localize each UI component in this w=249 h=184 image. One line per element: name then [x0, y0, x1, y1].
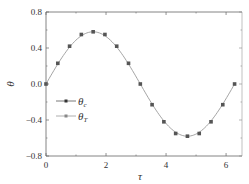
x-tick-label: 4	[164, 160, 169, 170]
theta-c-marker	[221, 103, 225, 107]
x-axis-label: τ	[138, 170, 143, 182]
theta-c-marker	[127, 62, 131, 66]
y-tick-label: 0.4	[31, 43, 43, 53]
theta-c-marker	[139, 82, 143, 86]
chart: 02460.80.40.0−0.4−0.8 τ θ θcθT	[0, 0, 249, 184]
legend-marker	[65, 100, 68, 103]
theta-c-marker	[115, 44, 119, 48]
plot-frame	[46, 12, 242, 156]
theta-c-marker	[80, 33, 84, 37]
theta-c-marker	[233, 82, 237, 86]
legend-label: θc	[78, 95, 87, 109]
y-tick-label: 0.8	[31, 7, 43, 17]
y-tick-label: 0.0	[31, 79, 43, 89]
y-tick-label: −0.8	[26, 151, 43, 161]
theta-c-marker	[174, 132, 178, 136]
legend: θcθT	[56, 95, 88, 124]
legend-label: θT	[78, 110, 88, 124]
legend-marker	[65, 115, 68, 118]
theta-c-marker	[186, 134, 190, 138]
x-tick-label: 0	[44, 160, 49, 170]
theta-c-marker	[56, 62, 60, 66]
x-tick-label: 2	[104, 160, 109, 170]
theta-c-marker	[150, 103, 154, 107]
y-axis-label: θ	[4, 81, 16, 87]
x-tick-label: 6	[224, 160, 229, 170]
theta-c-marker	[103, 33, 107, 37]
theta-c-marker	[197, 132, 201, 136]
theta-c-marker	[209, 120, 213, 124]
axis-ticks: 02460.80.40.0−0.4−0.8	[26, 7, 242, 170]
theta-c-marker	[68, 44, 72, 48]
y-tick-label: −0.4	[26, 115, 43, 125]
theta-c-marker	[162, 120, 166, 124]
theta-c-markers	[44, 30, 236, 138]
theta-c-marker	[91, 30, 95, 34]
